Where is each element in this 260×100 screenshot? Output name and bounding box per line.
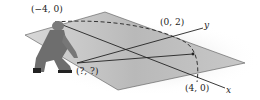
point-on-arc <box>192 53 195 56</box>
label-x-axis: x <box>226 86 231 95</box>
label-top-point: (0, 2) <box>160 18 184 27</box>
semi-ellipse-figure: (−4, 0) (0, 2) y (?, ?) (4, 0) x <box>0 0 260 100</box>
label-right-point: (4, 0) <box>185 84 209 93</box>
label-unknown-point: (?, ?) <box>76 67 98 76</box>
label-left-point: (−4, 0) <box>31 5 63 14</box>
figure-canvas <box>0 0 260 100</box>
label-y-axis: y <box>204 21 209 30</box>
